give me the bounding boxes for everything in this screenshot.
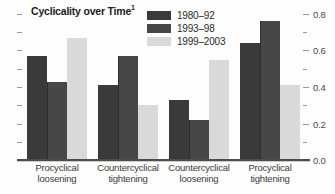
bar-1999-2003-cat1 — [67, 38, 87, 160]
bar-1980-92-cat3 — [169, 100, 189, 160]
right-axis-tick — [303, 105, 307, 106]
left-axis-tick — [17, 14, 22, 15]
bar-1980-92-cat1 — [27, 56, 47, 160]
chart-container: Cyclicality over Time1 1980–921993–98199… — [0, 0, 335, 194]
bar-1993-98-cat3 — [189, 120, 209, 160]
bar-1980-92-cat2 — [98, 85, 118, 160]
plot-area: Procyclical looseningCountercyclical tig… — [0, 0, 335, 194]
right-axis-tick-label: 0.6 — [313, 45, 326, 56]
bar-1980-92-cat4 — [240, 43, 260, 160]
x-axis-shadow — [17, 161, 310, 162]
right-axis-tick-label: 0.0 — [313, 155, 326, 166]
right-axis-tick — [303, 14, 309, 15]
right-axis-tick — [303, 142, 307, 143]
left-axis-tick — [17, 69, 22, 70]
left-axis-tick — [17, 87, 22, 88]
x-axis-label: Procyclical tightening — [225, 163, 315, 184]
right-axis-tick-label: 0.8 — [313, 9, 326, 20]
right-axis-tick — [303, 124, 309, 125]
left-axis-tick — [17, 124, 22, 125]
left-axis-tick — [17, 105, 22, 106]
right-axis-tick-label: 0.4 — [313, 82, 326, 93]
bar-1993-98-cat1 — [47, 82, 67, 160]
left-axis-tick — [17, 32, 22, 33]
bar-1993-98-cat2 — [118, 56, 138, 160]
bar-1999-2003-cat3 — [209, 60, 229, 160]
left-axis-tick — [17, 142, 22, 143]
left-axis-tick — [17, 50, 22, 51]
right-axis-tick — [303, 69, 307, 70]
bar-1993-98-cat4 — [260, 21, 280, 160]
bar-1999-2003-cat2 — [138, 105, 158, 160]
right-axis-tick — [303, 32, 307, 33]
right-axis-tick-label: 0.2 — [313, 119, 326, 130]
right-axis-tick — [303, 50, 309, 51]
right-axis-tick — [303, 87, 309, 88]
bar-1999-2003-cat4 — [280, 85, 300, 160]
